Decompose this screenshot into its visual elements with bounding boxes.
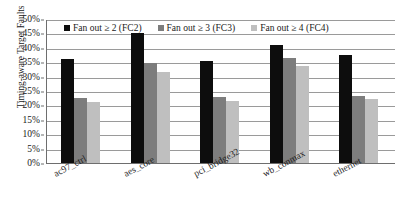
y-axis-tick-mark [41,92,44,93]
bar [200,61,213,163]
y-axis-tick-mark [41,77,44,78]
y-axis-tick-label: 5% [27,145,40,155]
y-axis-tick-label: 35% [23,58,40,68]
y-axis-tick-mark [41,164,44,165]
x-axis-category-labels: ac97_ctrlaes_corepci_bridge32wb_conmaxet… [46,164,395,206]
y-axis-tick-mark [41,63,44,64]
legend-swatch-icon [64,25,70,31]
bar [61,59,74,163]
bar-groups [47,20,395,163]
y-axis-tick-mark [41,120,44,121]
bar [365,99,378,164]
bar-group [256,20,326,163]
y-axis-tick-mark [41,48,44,49]
y-axis-tick-mark [41,34,44,35]
y-axis-tick-label: 20% [23,102,40,112]
y-axis-tick-mark [41,135,44,136]
y-axis-tick-mark [41,20,44,21]
y-axis-tick-label: 25% [23,87,40,97]
bar [339,55,352,163]
y-axis-tick-mark [41,106,44,107]
plot-area [46,20,395,164]
y-axis-tick-label: 0% [27,159,40,169]
legend-swatch-icon [251,25,257,31]
bar-group [47,20,117,163]
y-axis-tick-label: 15% [23,116,40,126]
legend-label: Fan out ≥ 2 (FC2) [73,23,142,33]
bar-chart: Timing-aware Target Faults 0%5%10%15%20%… [0,0,403,206]
legend-item: Fan out ≥ 2 (FC2) [64,23,142,33]
y-axis-tick-mark [41,149,44,150]
bar [144,63,157,163]
y-axis-tick-label: 40% [23,44,40,54]
legend-item: Fan out ≥ 4 (FC4) [251,23,329,33]
y-axis-tick-labels: 0%5%10%15%20%25%30%35%40%45%50% [0,20,44,164]
bar-group [186,20,256,163]
y-axis-tick-label: 30% [23,73,40,83]
y-axis-tick-label: 10% [23,130,40,140]
y-axis-tick-label: 45% [23,30,40,40]
bar-group [117,20,187,163]
bar [87,102,100,163]
legend-label: Fan out ≥ 4 (FC4) [260,23,329,33]
y-axis-tick-label: 50% [23,15,40,25]
bar-group [325,20,395,163]
chart-legend: Fan out ≥ 2 (FC2)Fan out ≥ 3 (FC3)Fan ou… [64,20,329,35]
legend-item: Fan out ≥ 3 (FC3) [158,23,236,33]
bar [283,58,296,163]
legend-swatch-icon [158,25,164,31]
bar [157,72,170,163]
legend-label: Fan out ≥ 3 (FC3) [167,23,236,33]
bar [270,45,283,163]
bar [74,98,87,163]
bar [131,33,144,163]
bar [352,96,365,163]
